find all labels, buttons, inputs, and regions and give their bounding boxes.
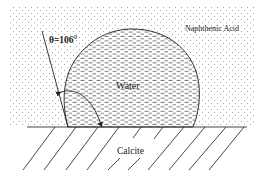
naphthenic-acid-label: Naphthenic Acid [185, 24, 239, 33]
water-label: Water [116, 80, 140, 91]
diagram-svg: θ=106° Water Naphthenic Acid Calcite [0, 0, 272, 187]
calcite-label: Calcite [117, 146, 144, 156]
angle-label: θ=106° [49, 35, 78, 45]
contact-angle-diagram: θ=106° Water Naphthenic Acid Calcite [0, 0, 272, 187]
